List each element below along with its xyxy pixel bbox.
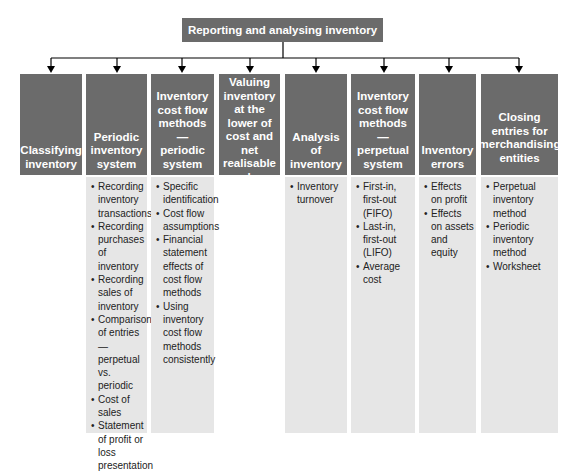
subtopic-item: Cost flow assumptions xyxy=(156,207,212,234)
root-topic-box: Reporting and analysing inventory xyxy=(182,18,383,42)
topic-analysis-of-inventory: Analysis of inventory xyxy=(285,74,347,175)
subtopic-item: Last-in, first-out (LIFO) xyxy=(356,220,413,260)
root-topic-label: Reporting and analysing inventory xyxy=(188,24,377,36)
subtopic-item: Average cost xyxy=(356,260,413,287)
topic-title: Periodic inventory system xyxy=(88,131,145,172)
subtopic-list-closing-entries: Perpetual inventory method Periodic inve… xyxy=(481,177,558,433)
topic-cost-flow-perpetual: Inventory cost flow methods — perpetual … xyxy=(351,74,415,175)
subtopic-list-inventory-errors: Effects on profit Effects on assets and … xyxy=(419,177,476,433)
subtopic-item: Inventory turnover xyxy=(290,180,345,207)
subtopic-item: First-in, first-out (FIFO) xyxy=(356,180,413,220)
topic-title: Inventory errors xyxy=(421,144,474,171)
topic-title: Analysis of inventory xyxy=(287,131,345,172)
subtopic-item: Recording purchases of inventory xyxy=(91,220,145,273)
subtopic-item: Cost of sales xyxy=(91,393,145,420)
topic-cost-flow-periodic: Inventory cost flow methods — periodic s… xyxy=(151,74,214,175)
subtopic-item: Effects on assets and equity xyxy=(424,207,474,260)
subtopic-item: Specific identification xyxy=(156,180,212,207)
subtopic-item: Using inventory cost flow methods consis… xyxy=(156,300,212,366)
subtopic-item: Recording sales of inventory xyxy=(91,273,145,313)
topic-periodic-inventory-system: Periodic inventory system xyxy=(86,74,147,175)
topic-title: Classifying inventory xyxy=(20,144,81,171)
subtopic-list-periodic-inventory-system: Recording inventory transactions Recordi… xyxy=(86,177,147,433)
topic-closing-entries: Closing entries for merchandising entiti… xyxy=(481,74,558,175)
topic-valuing-inventory-lcnrv: Valuing inventory at the lower of cost a… xyxy=(219,74,280,175)
subtopic-item: Financial statement effects of cost flow… xyxy=(156,233,212,299)
subtopic-list-cost-flow-periodic: Specific identification Cost flow assump… xyxy=(151,177,214,433)
topic-title: Inventory cost flow methods — perpetual … xyxy=(353,90,413,171)
topic-classifying-inventory: Classifying inventory xyxy=(20,74,82,175)
subtopic-item: Effects on profit xyxy=(424,180,474,207)
topic-title: Inventory cost flow methods — periodic s… xyxy=(153,90,212,171)
subtopic-item: Perpetual inventory method xyxy=(486,180,556,220)
subtopic-item: Recording inventory transactions xyxy=(91,180,145,220)
topic-title: Closing entries for merchandising entiti… xyxy=(479,111,561,165)
subtopic-list-cost-flow-perpetual: First-in, first-out (FIFO) Last-in, firs… xyxy=(351,177,415,433)
subtopic-item: Periodic inventory method xyxy=(486,220,556,260)
subtopic-list-analysis-of-inventory: Inventory turnover xyxy=(285,177,347,433)
subtopic-item: Worksheet xyxy=(486,260,556,273)
topic-title: Valuing inventory at the lower of cost a… xyxy=(221,76,278,184)
subtopic-item: Comparison of entries — perpetual vs. pe… xyxy=(91,313,145,393)
topic-inventory-errors: Inventory errors xyxy=(419,74,476,175)
subtopic-item: Statement of profit or loss presentation xyxy=(91,419,145,472)
